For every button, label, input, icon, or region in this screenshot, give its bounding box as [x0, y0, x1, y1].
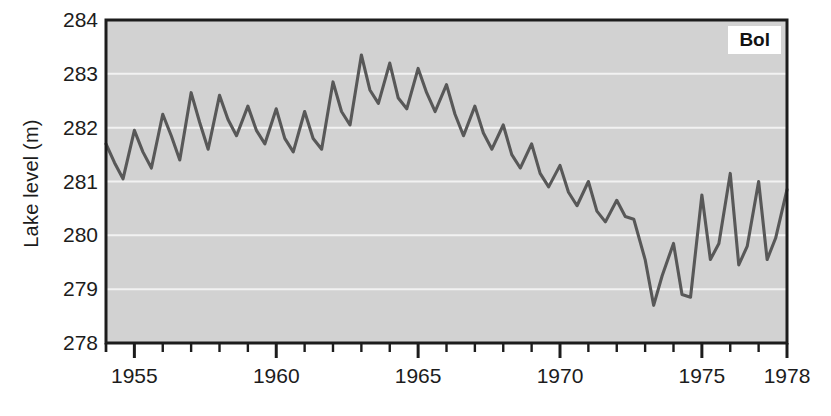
series-legend-label: Bol [728, 26, 781, 54]
chart-figure: Lake level (m) 284283282281280279278 195… [0, 0, 831, 416]
plot-area [0, 0, 831, 416]
